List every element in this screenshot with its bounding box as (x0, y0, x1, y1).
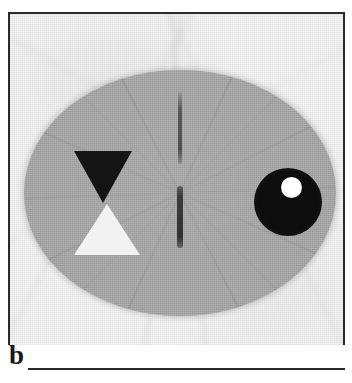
scan-image-plate (8, 12, 345, 345)
panel-label: b (9, 342, 24, 369)
figure-panel: b (0, 0, 352, 383)
dark-triangle (74, 151, 132, 203)
center-rod-upper (178, 92, 182, 164)
panel-bottom-rule (28, 368, 345, 370)
bright-inclusion (281, 177, 302, 198)
center-rod-lower (177, 186, 183, 248)
light-triangle (74, 204, 140, 255)
